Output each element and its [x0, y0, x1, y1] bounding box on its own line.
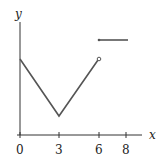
closed-endpoint	[98, 39, 101, 42]
x-axis-label: x	[149, 128, 156, 142]
tick-label-3: 3	[55, 143, 63, 157]
piecewise-graph: y x 0 3 6 8	[0, 0, 161, 162]
open-endpoint	[97, 57, 101, 61]
tick-label-0: 0	[16, 143, 24, 157]
v-shape-line	[20, 59, 98, 116]
y-axis-label: y	[14, 7, 22, 21]
tick-label-6: 6	[95, 143, 103, 157]
tick-label-8: 8	[122, 143, 130, 157]
